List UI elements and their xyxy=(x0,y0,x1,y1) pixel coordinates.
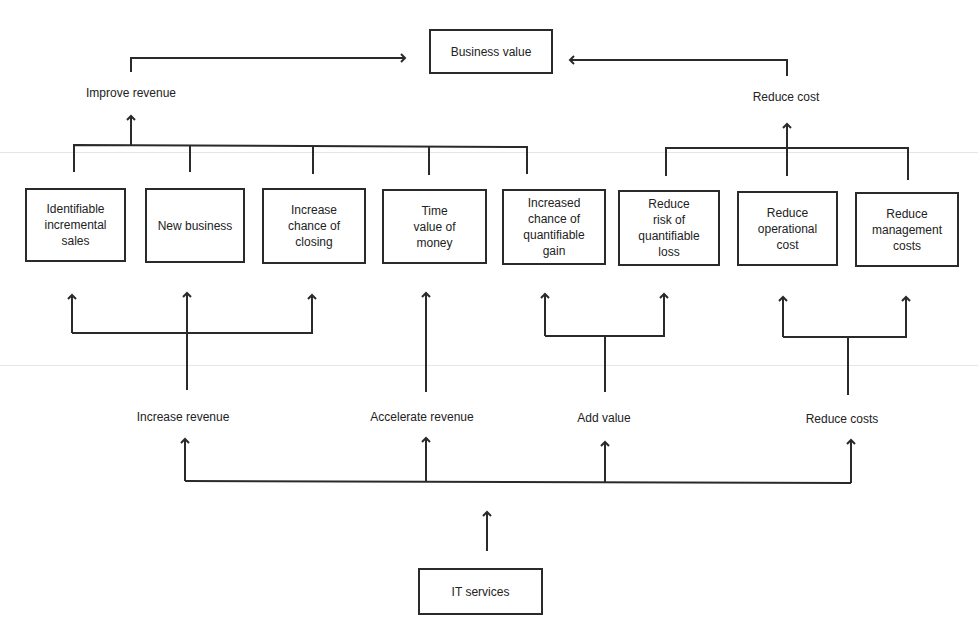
box-reduce-management-costs: Reduce management costs xyxy=(855,192,959,267)
box-reduce-operational-cost: Reduce operational cost xyxy=(737,191,838,266)
box-label: New business xyxy=(158,218,233,234)
box-reduce-risk-of-quantifiable-loss: Reduce risk of quantifiable loss xyxy=(618,190,720,266)
box-label: Reduce risk of quantifiable loss xyxy=(638,196,699,260)
reduce-cost-label: Reduce cost xyxy=(753,90,820,104)
box-time-value-of-money: Time value of money xyxy=(382,189,487,264)
add-value-label: Add value xyxy=(577,411,630,425)
improve-revenue-label: Improve revenue xyxy=(86,86,176,100)
increase-revenue-label: Increase revenue xyxy=(137,410,230,424)
box-label: Reduce operational cost xyxy=(758,205,817,253)
box-label: Increase chance of closing xyxy=(288,202,340,250)
box-label: Reduce management costs xyxy=(872,206,942,254)
business-value-label: Business value xyxy=(451,44,532,60)
business-value-box: Business value xyxy=(429,29,553,74)
box-label: Time value of money xyxy=(413,203,455,251)
box-increased-chance-of-quantifiable-gain: Increased chance of quantifiable gain xyxy=(502,189,606,265)
box-increase-chance-of-closing: Increase chance of closing xyxy=(262,188,366,264)
it-value-diagram: Business value Improve revenue Reduce co… xyxy=(0,0,978,643)
box-label: Identifiable incremental sales xyxy=(44,201,106,249)
reduce-costs-label: Reduce costs xyxy=(806,412,879,426)
it-services-label: IT services xyxy=(452,584,510,600)
box-identifiable-incremental-sales: Identifiable incremental sales xyxy=(25,188,126,262)
box-label: Increased chance of quantifiable gain xyxy=(523,195,584,259)
it-services-box: IT services xyxy=(418,568,543,615)
box-new-business: New business xyxy=(145,188,245,263)
accelerate-revenue-label: Accelerate revenue xyxy=(370,410,473,424)
